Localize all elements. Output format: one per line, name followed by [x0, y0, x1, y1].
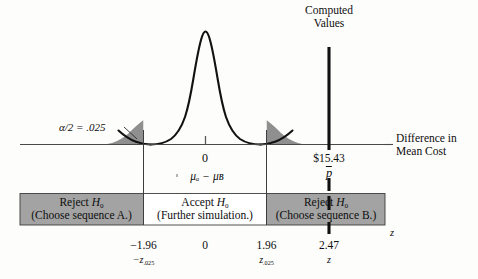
tick-sublabel-neg-196: −z.025: [133, 254, 154, 265]
reject-left-line1: Reject H0: [31, 196, 132, 209]
accept-middle-hypothesis: H: [217, 196, 225, 208]
mu-difference-label: μₐ − μʙ: [190, 170, 223, 183]
axis-label-line1: Difference in: [396, 132, 457, 145]
alpha-half-annotation: α/2 = .025: [59, 121, 106, 133]
difference-in-mean-cost-axis-label: Difference in Mean Cost: [396, 132, 457, 158]
reject-right-line2: (Choose sequence B.): [276, 209, 377, 222]
computed-values-annotation: Computed Values: [305, 4, 353, 30]
p-bar-symbol: p: [326, 166, 332, 180]
reject-right-line1: Reject H0: [276, 196, 377, 209]
z-axis-label: z: [390, 227, 394, 239]
reject-right-band-label: Reject H0 (Choose sequence B.): [276, 196, 377, 222]
reject-left-hypothesis: H: [92, 196, 100, 208]
accept-middle-subscript: 0: [225, 202, 229, 210]
center-zero-label: 0: [202, 152, 208, 165]
reject-right-hypothesis: H: [336, 196, 344, 208]
tick-sublabel-pos-196-sub: .025: [263, 259, 274, 266]
alpha-half-text: α/2 = .025: [59, 121, 106, 133]
reject-left-line2: (Choose sequence A.): [31, 209, 132, 222]
tick-label-247: 2.47: [319, 239, 339, 252]
accept-middle-word: Accept: [181, 196, 214, 208]
accept-middle-line2: (Further simulation.): [157, 209, 253, 222]
tick-sublabel-247: z: [327, 254, 331, 265]
tick-label-zero: 0: [202, 239, 208, 252]
reject-right-subscript: 0: [344, 202, 348, 210]
reject-left-word: Reject: [59, 196, 88, 208]
tick-label-neg-196: −1.96: [130, 239, 157, 252]
tick-sublabel-neg-196-sym: −z: [133, 254, 144, 265]
axis-label-line2: Mean Cost: [396, 145, 457, 158]
p-bar-glyph: p: [326, 166, 332, 180]
reject-left-band-label: Reject H0 (Choose sequence A.): [31, 196, 132, 222]
right-tail-shaded-region: [267, 120, 312, 145]
accept-middle-band-label: Accept H0 (Further simulation.): [157, 196, 253, 222]
computed-values-line1: Computed: [305, 4, 353, 17]
tick-sublabel-neg-196-sub: .025: [143, 259, 154, 266]
computed-values-line2: Values: [305, 17, 353, 30]
tick-sublabel-247-sym: z: [327, 254, 331, 265]
tick-sublabel-pos-196: z.025: [259, 254, 274, 265]
reject-right-word: Reject: [304, 196, 333, 208]
accept-middle-line1: Accept H0: [157, 196, 253, 209]
reject-left-subscript: 0: [100, 202, 104, 210]
computed-dollar-value: $15.43: [313, 152, 345, 165]
statistical-hypothesis-test-figure: Computed Values α/2 = .025 Difference in…: [0, 0, 478, 279]
tick-label-pos-196: 1.96: [256, 239, 276, 252]
normal-distribution-curve: [151, 32, 261, 145]
